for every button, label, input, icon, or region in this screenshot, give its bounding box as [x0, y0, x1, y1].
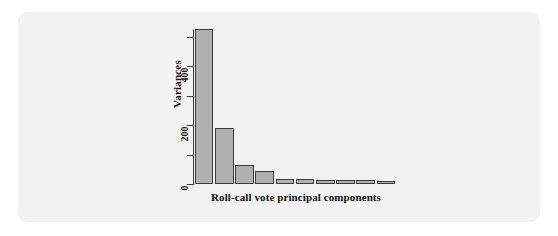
bar-pc5 — [276, 179, 295, 184]
bar-pc6 — [296, 179, 315, 184]
bar-pc7 — [316, 180, 335, 184]
bars-layer — [0, 0, 558, 236]
figure-root: 0 200 400 Variances Roll-call vote princ… — [0, 0, 558, 236]
bar-pc3 — [235, 165, 254, 184]
plot-area: 0 200 400 Variances Roll-call vote princ… — [0, 0, 558, 236]
bar-pc9 — [356, 180, 375, 184]
bar-pc10 — [377, 181, 396, 184]
bar-pc2 — [215, 128, 234, 184]
bar-pc4 — [255, 171, 274, 184]
bar-pc1 — [195, 29, 214, 184]
bar-pc8 — [336, 180, 355, 184]
